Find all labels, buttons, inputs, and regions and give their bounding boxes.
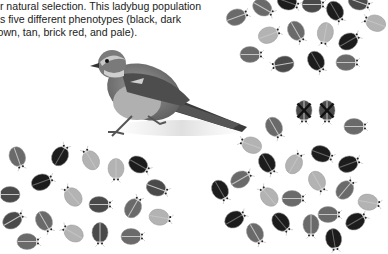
ladybug-medium [17,233,41,250]
ladybug-black [342,207,371,234]
ladybug-medium [240,46,264,63]
ladybug-dark [0,186,20,203]
ladybug-dark [144,176,172,200]
ladybug-medium [318,206,342,223]
caption-line-2: as five different phenotypes (black, dar… [0,13,224,26]
ladybug-medium [284,18,311,47]
ladybug-pale [148,207,175,228]
ladybug-black [268,209,296,238]
ladybug-pale [254,181,282,210]
ladybug-pale [305,168,332,197]
ladybug-medium [336,54,360,71]
ladybug-black [335,27,364,54]
ladybug-pale [282,148,309,177]
ladybug-medium [121,228,145,245]
ladybug-pale [58,181,86,210]
ladybug-dark [89,196,113,213]
ladybug-pale [236,132,264,156]
ladybug-medium [344,118,368,135]
ladybug-black [275,0,303,15]
ladybug-black [309,142,337,166]
ladybug-medium [249,0,278,22]
ladybug-pale [256,22,284,46]
ladybug-dark-eaten [319,101,336,125]
sparrow-bird-image [82,44,254,144]
ladybug-black [304,48,331,77]
figure-caption: or natural selection. This ladybug popul… [0,0,224,39]
ladybug-black [125,152,154,179]
bird-icon [82,44,254,144]
ladybug-black [324,227,345,254]
ladybug-medium [224,4,252,28]
ladybug-dark [0,206,29,233]
ladybug-dark [92,223,109,247]
ladybug-medium [303,215,320,239]
ladybug-pale [57,219,86,246]
ladybug-medium [262,114,289,143]
ladybug-dark [269,54,296,75]
ladybug-pale [108,159,125,183]
ladybug-medium [6,144,30,172]
caption-line-3: rown, tan, brick red, and pale). [0,26,224,39]
ladybug-pale [315,21,336,48]
ladybug-black [29,169,57,193]
ladybug-medium [121,192,148,221]
ladybug-pale [360,10,388,34]
ladybug-pale [77,144,104,173]
ladybug-black [48,140,75,169]
ladybug-medium [282,190,306,207]
ladybug-medium [243,220,270,249]
ladybug-black [336,151,364,175]
ladybug-medium [332,174,360,203]
ladybug-dark-eaten [296,101,313,125]
caption-line-1: or natural selection. This ladybug popul… [0,0,224,13]
ladybug-medium [227,165,256,192]
